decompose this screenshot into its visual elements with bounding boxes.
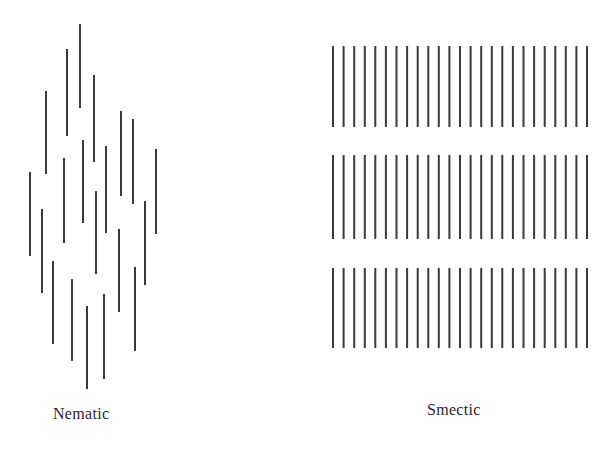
diagram-graphic: [0, 0, 610, 453]
nematic-molecules: [30, 24, 156, 389]
smectic-layers: [333, 46, 587, 348]
smectic-label: Smectic: [427, 401, 481, 419]
liquid-crystal-phases-diagram: Nematic Smectic: [0, 0, 610, 453]
smectic-layer: [333, 155, 587, 239]
smectic-layer: [333, 46, 587, 127]
smectic-layer: [333, 268, 587, 348]
nematic-label: Nematic: [53, 405, 109, 423]
